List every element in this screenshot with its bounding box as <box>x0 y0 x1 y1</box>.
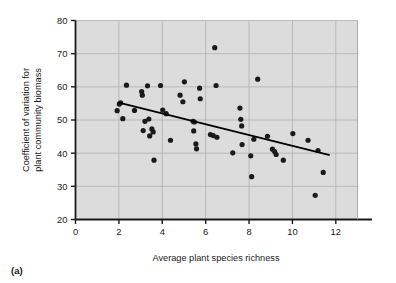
data-point <box>132 108 137 113</box>
data-point <box>249 174 254 179</box>
data-point <box>193 141 198 146</box>
y-tick-label: 70 <box>57 48 67 59</box>
data-point <box>145 83 150 88</box>
x-tick-label: 12 <box>331 226 341 237</box>
data-point <box>212 45 217 50</box>
x-tick-label: 10 <box>287 226 297 237</box>
data-point <box>239 123 244 128</box>
data-point <box>238 117 243 122</box>
data-point <box>191 128 196 133</box>
y-tick-label: 20 <box>57 214 67 225</box>
data-point <box>198 96 203 101</box>
data-point <box>255 77 260 82</box>
data-point <box>265 134 270 139</box>
data-point <box>313 193 318 198</box>
data-point <box>115 108 120 113</box>
data-point <box>151 158 156 163</box>
y-tick-label: 30 <box>57 181 67 192</box>
x-tick-label: 4 <box>160 226 165 237</box>
data-point <box>140 93 145 98</box>
y-axis-label-line1: Coefficient of variation for <box>21 68 31 172</box>
data-point <box>290 131 295 136</box>
x-tick-label: 0 <box>73 226 78 237</box>
data-point <box>124 83 129 88</box>
data-point <box>240 142 245 147</box>
x-tick-label: 2 <box>116 226 121 237</box>
data-point <box>281 158 286 163</box>
data-point <box>177 93 182 98</box>
y-tick-label: 60 <box>57 81 67 92</box>
data-point <box>197 86 202 91</box>
data-point <box>120 116 125 121</box>
data-point <box>194 146 199 151</box>
data-point <box>168 138 173 143</box>
y-tick-label: 80 <box>57 15 67 26</box>
data-point <box>213 83 218 88</box>
data-point <box>214 135 219 140</box>
x-axis-label: Average plant species richness <box>153 253 280 263</box>
data-point <box>182 79 187 84</box>
data-point <box>158 83 163 88</box>
data-point <box>147 133 152 138</box>
data-point <box>274 152 279 157</box>
scatter-plot: 024681012 20304050607080 Average plant s… <box>0 0 396 283</box>
x-tick-label: 6 <box>203 226 208 237</box>
data-point <box>230 150 235 155</box>
figure-panel: 024681012 20304050607080 Average plant s… <box>0 0 396 283</box>
data-point <box>180 99 185 104</box>
panel-caption: (a) <box>11 265 23 276</box>
data-point <box>146 116 151 121</box>
y-tick-label: 40 <box>57 148 67 159</box>
x-tick-label: 8 <box>246 226 251 237</box>
data-point <box>305 138 310 143</box>
data-point <box>248 153 253 158</box>
data-point <box>141 128 146 133</box>
y-axis-label-line2: plant community biomass <box>33 68 43 172</box>
data-point <box>237 105 242 110</box>
data-point <box>151 129 156 134</box>
y-tick-label: 50 <box>57 114 67 125</box>
data-point <box>321 170 326 175</box>
